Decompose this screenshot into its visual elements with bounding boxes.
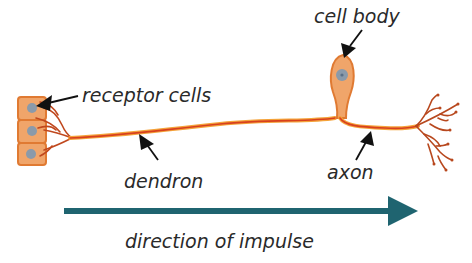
nucleus-icon	[27, 103, 37, 113]
cell-body-pointer	[350, 30, 362, 46]
label-dendron: dendron	[124, 172, 203, 191]
sensory-neuron-diagram: receptor cells cell body dendron axon di…	[0, 0, 472, 263]
nucleus-icon	[27, 126, 37, 136]
label-axon: axon	[327, 163, 374, 182]
label-cell-body: cell body	[314, 7, 400, 26]
nucleus-icon	[26, 149, 36, 159]
direction-arrow-icon	[64, 196, 418, 226]
cell-body	[331, 55, 354, 118]
neuron-illustration	[0, 0, 472, 263]
axon-fibre	[340, 118, 418, 128]
label-receptor-cells: receptor cells	[82, 86, 211, 105]
axon-pointer	[356, 142, 366, 160]
label-direction-of-impulse: direction of impulse	[125, 232, 314, 251]
